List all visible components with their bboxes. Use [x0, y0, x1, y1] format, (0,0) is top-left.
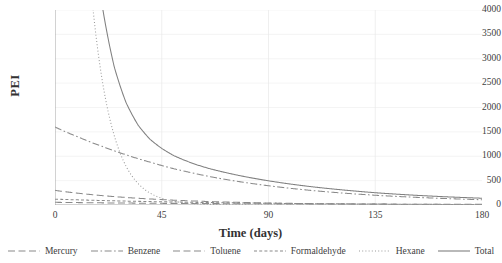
legend-item-hexane[interactable]: Hexane — [358, 246, 425, 256]
legend-swatch-benzene — [90, 247, 124, 255]
grid-lines — [55, 10, 482, 205]
y-axis-title: PEI — [8, 51, 23, 121]
legend-item-mercury[interactable]: Mercury — [7, 246, 78, 256]
legend-label: Mercury — [45, 246, 78, 256]
legend-swatch-total — [437, 247, 471, 255]
legend-item-formaldehyde[interactable]: Formaldehyde — [253, 246, 346, 256]
x-tick-label: 135 — [355, 211, 395, 221]
legend-label: Benzene — [128, 246, 161, 256]
legend-swatch-toluene — [172, 247, 206, 255]
plot-area — [55, 10, 482, 205]
legend-label: Toluene — [210, 246, 240, 256]
x-tick-label: 0 — [35, 211, 75, 221]
legend-swatch-mercury — [7, 247, 41, 255]
x-axis-title: Time (days) — [0, 226, 501, 241]
legend-swatch-hexane — [358, 247, 392, 255]
legend-item-benzene[interactable]: Benzene — [90, 246, 161, 256]
x-tick-label: 45 — [142, 211, 182, 221]
legend-item-total[interactable]: Total — [437, 246, 494, 256]
legend-item-toluene[interactable]: Toluene — [172, 246, 240, 256]
x-tick-label: 90 — [249, 211, 289, 221]
legend-label: Hexane — [396, 246, 425, 256]
chart-legend: MercuryBenzeneTolueneFormaldehydeHexaneT… — [0, 243, 501, 259]
legend-label: Formaldehyde — [291, 246, 346, 256]
legend-label: Total — [475, 246, 494, 256]
x-tick-label: 180 — [462, 211, 502, 221]
series-canvas — [55, 10, 482, 205]
legend-swatch-formaldehyde — [253, 247, 287, 255]
